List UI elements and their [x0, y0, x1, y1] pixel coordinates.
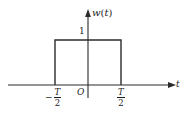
minus-sign: −: [45, 92, 53, 103]
fraction-denominator: 2: [54, 98, 61, 107]
origin-label: O: [77, 88, 84, 97]
fraction-negative-half-t: T 2: [54, 88, 62, 108]
tick-label-negative-half-t: − T 2: [45, 88, 61, 108]
y-axis-label-function: w: [92, 7, 101, 18]
x-axis-label: t: [176, 80, 180, 89]
t-axis-arrowhead: [168, 82, 176, 88]
horizontal-axis: [8, 82, 176, 88]
fraction-denominator: 2: [117, 98, 124, 107]
fraction-numerator: T: [54, 88, 62, 97]
w-axis-arrowhead: [85, 9, 91, 17]
y-axis-label: w(t): [92, 8, 112, 18]
amplitude-label: 1: [79, 27, 85, 36]
fraction-numerator: T: [117, 88, 125, 97]
rectangular-window-figure: w(t) t 1 O − T 2 T 2: [0, 0, 186, 124]
tick-label-half-t: T 2: [117, 88, 125, 108]
y-axis-label-close-paren: ): [109, 7, 113, 18]
plot-canvas: [0, 0, 186, 124]
